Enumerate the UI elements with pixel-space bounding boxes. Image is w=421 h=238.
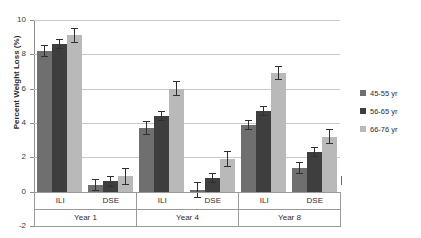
error-bar xyxy=(263,106,264,116)
bar-slot xyxy=(256,20,271,192)
y-tick-label: 10 xyxy=(0,16,26,24)
legend-item: 45-55 yr xyxy=(360,84,420,102)
legend: 45-55 yr56-65 yr66-76 yr xyxy=(360,84,420,138)
error-bar xyxy=(95,179,96,191)
x-tick-label: ILI xyxy=(137,192,188,209)
bar-group xyxy=(34,20,85,192)
bar xyxy=(154,116,169,192)
legend-label: 66-76 yr xyxy=(370,125,398,134)
bar xyxy=(241,125,256,192)
bar-slot xyxy=(118,20,133,192)
error-bar xyxy=(314,147,315,157)
y-tick-label: -2 xyxy=(0,222,26,230)
bar-slot xyxy=(139,20,154,192)
bar-group xyxy=(85,20,136,192)
bar xyxy=(52,44,67,192)
bar-groups xyxy=(34,20,340,192)
plot-area xyxy=(34,20,340,192)
legend-swatch xyxy=(360,126,366,132)
bar-group xyxy=(238,20,289,192)
bar-slot xyxy=(322,20,337,192)
bar xyxy=(322,137,337,192)
bar-slot xyxy=(205,20,220,192)
x-tick-label: ILI xyxy=(35,192,86,209)
error-bar xyxy=(44,45,45,57)
error-bar xyxy=(176,81,177,96)
bar-slot xyxy=(52,20,67,192)
y-tick-label: 0 xyxy=(0,188,26,196)
bar-slot xyxy=(271,20,286,192)
legend-label: 56-65 yr xyxy=(370,107,398,116)
bar-slot xyxy=(169,20,184,192)
x-tick-label: DSE xyxy=(188,192,239,209)
x-group-label: Year 4 xyxy=(137,210,238,227)
y-tick-label: 4 xyxy=(0,119,26,127)
x-tick-label: DSE xyxy=(290,192,341,209)
bar-slot xyxy=(37,20,52,192)
category-axis-bottom-border xyxy=(34,226,341,227)
error-bar xyxy=(212,173,213,183)
bar-slot xyxy=(241,20,256,192)
error-bar xyxy=(161,111,162,121)
legend-label: 45-55 yr xyxy=(370,89,398,98)
bar-group xyxy=(187,20,238,192)
category-group: ILIDSEYear 4 xyxy=(137,192,239,226)
bar-slot xyxy=(307,20,322,192)
bar-slot xyxy=(88,20,103,192)
right-edge-tick xyxy=(341,176,342,185)
error-bar xyxy=(125,168,126,185)
y-tick-label: 6 xyxy=(0,85,26,93)
bar xyxy=(67,35,82,191)
bar xyxy=(169,89,184,192)
bar xyxy=(271,73,286,191)
error-bar xyxy=(278,66,279,80)
category-group: ILIDSEYear 8 xyxy=(239,192,341,226)
bar xyxy=(139,128,154,192)
bar xyxy=(307,152,322,191)
error-bar xyxy=(248,120,249,130)
arm-label-row: ILIDSE xyxy=(239,192,340,210)
arm-label-row: ILIDSE xyxy=(35,192,136,210)
bar-group xyxy=(289,20,340,192)
bar-slot xyxy=(154,20,169,192)
y-tick-label: 2 xyxy=(0,153,26,161)
category-group: ILIDSEYear 1 xyxy=(34,192,137,226)
legend-item: 66-76 yr xyxy=(360,120,420,138)
bar-slot xyxy=(190,20,205,192)
bar-slot xyxy=(292,20,307,192)
bar xyxy=(37,51,52,192)
y-tick-label: 8 xyxy=(0,50,26,58)
category-axis: ILIDSEYear 1ILIDSEYear 4ILIDSEYear 8 xyxy=(34,192,341,226)
bar-slot xyxy=(220,20,235,192)
error-bar xyxy=(59,39,60,49)
error-bar xyxy=(329,129,330,144)
bar-slot xyxy=(67,20,82,192)
x-group-label: Year 1 xyxy=(35,210,136,227)
error-bar xyxy=(110,176,111,186)
bar xyxy=(256,111,271,192)
legend-item: 56-65 yr xyxy=(360,102,420,120)
legend-swatch xyxy=(360,90,366,96)
x-tick-label: ILI xyxy=(239,192,290,209)
error-bar xyxy=(299,162,300,174)
bar-group xyxy=(136,20,187,192)
arm-label-row: ILIDSE xyxy=(137,192,238,210)
error-bar xyxy=(74,28,75,43)
bar-chart: Percent Weight Loss (%) 1086420-2 ILIDSE… xyxy=(0,0,421,238)
x-tick-label: DSE xyxy=(86,192,137,209)
error-bar xyxy=(146,121,147,135)
error-bar xyxy=(227,151,228,166)
x-group-label: Year 8 xyxy=(239,210,340,227)
bar-slot xyxy=(103,20,118,192)
legend-swatch xyxy=(360,108,366,114)
